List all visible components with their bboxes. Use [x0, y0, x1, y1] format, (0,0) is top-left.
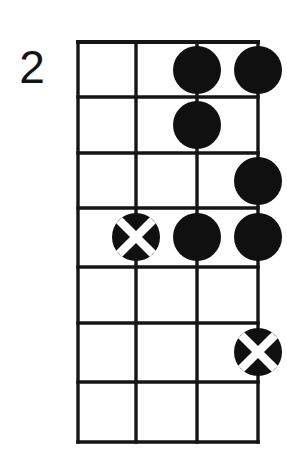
filled-dot-icon [173, 213, 221, 261]
marker-string-3-fret-2[interactable] [173, 101, 221, 149]
filled-dot-icon [173, 46, 221, 94]
fretboard-diagram: 2 [0, 0, 287, 463]
filled-dot-icon [234, 157, 282, 205]
marker-string-4-fret-6[interactable] [234, 328, 282, 376]
fret-lines-group [78, 42, 258, 442]
marker-string-4-fret-3[interactable] [234, 157, 282, 205]
fretboard-grid [0, 0, 287, 463]
marker-string-3-fret-1[interactable] [173, 46, 221, 94]
filled-dot-icon [234, 213, 282, 261]
marker-string-4-fret-1[interactable] [234, 46, 282, 94]
filled-dot-icon [234, 46, 282, 94]
filled-dot-icon [173, 101, 221, 149]
marker-string-2-fret-4[interactable] [112, 213, 160, 261]
marker-string-4-fret-4[interactable] [234, 213, 282, 261]
marker-string-3-fret-4[interactable] [173, 213, 221, 261]
